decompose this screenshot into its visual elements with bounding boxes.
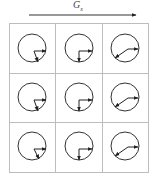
- circle-icon: [18, 83, 46, 111]
- cell-r2-c1: [18, 83, 46, 111]
- cell-r1-c2: [65, 34, 93, 62]
- circle-icon: [18, 34, 46, 62]
- cell-r1-c1: [18, 34, 46, 62]
- cell-r2-c2: [65, 83, 93, 111]
- cell-r3-c1: [18, 132, 46, 160]
- cell-r1-c3: [111, 34, 139, 62]
- gradient-diagram: [0, 0, 155, 178]
- cell-r3-c3: [111, 132, 139, 160]
- circle-icon: [18, 132, 46, 160]
- cell-r3-c2: [65, 132, 93, 160]
- cell-r2-c3: [111, 83, 139, 111]
